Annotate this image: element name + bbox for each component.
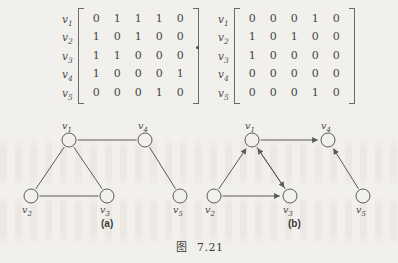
matrix-row-label: v4 [218,65,229,83]
graph-edge [74,147,102,189]
matrix-cell: 1 [305,84,326,102]
matrix-cell: 0 [284,84,305,102]
matrix-cell: 1 [86,65,107,83]
matrix-cell: 0 [263,10,284,28]
graph-node-label-v2: v2 [205,204,215,218]
matrix-cell: 0 [107,28,128,46]
matrix-cell: 0 [86,10,107,28]
node-label-index: 4 [326,126,330,134]
matrix-cell: 0 [170,47,191,65]
figure-caption-number: 7.21 [197,241,224,254]
graph-edge [36,147,64,189]
matrix-b-row-labels: v1v2v3v4v5 [218,8,233,104]
matrix-cell: 0 [242,65,263,83]
matrix-cell: 0 [107,65,128,83]
matrix-row: 10100 [86,28,191,46]
matrix-cell: 0 [128,47,149,65]
matrix-cell: 1 [149,84,170,102]
matrix-cell: 0 [263,28,284,46]
graph-node-v1 [245,133,259,147]
node-label-index: 3 [288,210,292,218]
graph-node-label-v4: v4 [321,120,331,134]
matrices-row: v1v2v3v4v5 0111010100110001000100010 v1v… [0,4,398,112]
matrix-cell: 0 [326,10,347,28]
matrix-row: 00010 [242,10,347,28]
matrix-row: 10100 [242,28,347,46]
matrix-row: 11000 [86,47,191,65]
matrix-cell: 0 [305,47,326,65]
matrix-cell: 1 [86,47,107,65]
graph-node-label-v1: v1 [245,120,255,134]
matrix-row-label-index: 1 [224,19,229,28]
graph-arc [219,149,246,189]
matrix-row-label: v1 [218,10,229,28]
matrix-row-label: v3 [62,47,73,65]
matrix-row: 01110 [86,10,191,28]
matrix-a-row-labels: v1v2v3v4v5 [62,8,77,104]
matrix-row-label-index: 2 [224,38,229,47]
graph-arc [257,147,284,187]
figure-stage: v1v2v3v4v5 0111010100110001000100010 v1v… [0,0,398,263]
matrix-cell: 0 [170,28,191,46]
matrix-cell: 0 [242,84,263,102]
nodes-layer [24,133,370,203]
matrix-cell: 1 [128,28,149,46]
matrix-cell: 1 [107,47,128,65]
matrix-row-label: v5 [62,84,73,102]
matrix-b-bracket: 0001010100100000000000010 [233,8,356,104]
graph-diagrams [0,112,398,224]
matrix-cell: 0 [149,65,170,83]
matrix-cell: 0 [149,47,170,65]
matrix-row-label: v2 [218,28,229,46]
graph-node-v4 [321,133,335,147]
graph-node-label-v1: v1 [62,120,72,134]
graph-node-v3 [283,189,297,203]
edges-layer [36,140,359,196]
matrix-cell: 1 [149,10,170,28]
matrix-row-label-index: 4 [68,74,73,83]
matrix-row: 00010 [242,84,347,102]
graph-node-label-v5: v5 [173,204,183,218]
matrix-row-label-index: 4 [224,74,229,83]
matrix-cell: 0 [284,10,305,28]
graph-node-label-v5: v5 [356,204,366,218]
matrix-cell: 0 [263,84,284,102]
matrix-cell: 0 [263,47,284,65]
node-label-index: 3 [105,210,109,218]
graph-node-v3 [100,189,114,203]
matrix-cell: 0 [128,84,149,102]
matrix-cell: 1 [86,28,107,46]
matrix-row-label-index: 5 [224,93,229,102]
matrix-cell: 0 [170,84,191,102]
matrix-a-table: 0111010100110001000100010 [86,10,191,102]
multiplication-dot-icon [196,46,199,49]
matrix-cell: 0 [305,28,326,46]
graph-node-label-v3: v3 [100,204,110,218]
graph-node-v2 [24,189,38,203]
matrix-row: 00000 [242,65,347,83]
matrix-cell: 0 [305,65,326,83]
matrix-cell: 1 [107,10,128,28]
graph-arc [334,149,359,189]
matrix-cell: 0 [170,10,191,28]
matrix-row: 00010 [86,84,191,102]
matrix-cell: 1 [305,10,326,28]
figure-caption-prefix: 图 [176,241,188,254]
graph-node-label-v3: v3 [283,204,293,218]
node-label-index: 4 [143,126,147,134]
node-label-index: 2 [210,210,214,218]
graph-node-v4 [138,133,152,147]
matrix-row-label: v1 [62,10,73,28]
matrix-cell: 0 [326,28,347,46]
graph-node-label-v2: v2 [22,204,32,218]
figure-caption: 图7.21 [176,238,224,254]
matrix-a-bracket: 0111010100110001000100010 [77,8,200,104]
matrix-row-label-index: 3 [68,56,73,65]
node-label-index: 5 [178,210,182,218]
adjacency-matrix-undirected: v1v2v3v4v5 0111010100110001000100010 [62,8,200,104]
graph-node-v2 [207,189,221,203]
graph-node-label-v4: v4 [138,120,148,134]
matrix-row-label: v2 [62,28,73,46]
matrix-b-table: 0001010100100000000000010 [242,10,347,102]
node-label-index: 2 [27,210,31,218]
